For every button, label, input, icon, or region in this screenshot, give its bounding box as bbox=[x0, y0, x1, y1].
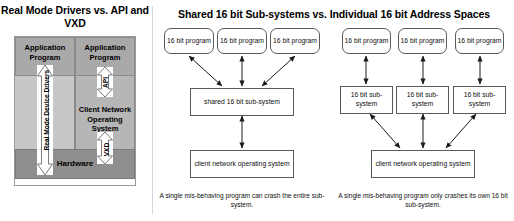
left-panel: Real Mode Drivers vs. API and VXD Client… bbox=[0, 0, 150, 221]
shared-subsystem-diagram: 16 bit program 16 bit program 16 bit pro… bbox=[156, 26, 328, 191]
subsystem-node: 16 bit sub-system bbox=[396, 86, 449, 114]
program-node: 16 bit program bbox=[342, 28, 391, 54]
subsystem-node: 16 bit sub-system bbox=[340, 86, 393, 114]
hardware-band: Hardware bbox=[15, 149, 135, 179]
shared-caption: A single mis-behaving program can crash … bbox=[156, 192, 328, 209]
vxd-label: VXD bbox=[103, 136, 110, 164]
program-node: 16 bit program bbox=[455, 28, 504, 54]
left-panel-title: Real Mode Drivers vs. API and VXD bbox=[0, 4, 150, 30]
individual-caption: A single mis-behaving program only crash… bbox=[334, 192, 512, 209]
program-node: 16 bit program bbox=[398, 28, 447, 54]
real-mode-device-drivers-label: Real Mode Device Drivers bbox=[43, 91, 50, 151]
right-panel-title: Shared 16 bit Sub-systems vs. Individual… bbox=[160, 8, 508, 20]
program-node: 16 bit program bbox=[217, 28, 267, 54]
client-network-os-node: client network operating system bbox=[190, 150, 294, 178]
client-network-os-label: Client Network Operating System bbox=[76, 105, 134, 134]
client-network-os-node: client network operating system bbox=[371, 150, 475, 178]
real-mode-vs-api-diagram: Client Network Operating System Applicat… bbox=[14, 36, 136, 186]
api-arrow: API bbox=[97, 67, 113, 97]
hardware-label: Hardware bbox=[16, 159, 134, 168]
individual-subsystem-diagram: 16 bit program 16 bit program 16 bit pro… bbox=[334, 26, 512, 191]
real-mode-device-drivers-arrow: Real Mode Device Drivers bbox=[37, 65, 53, 175]
panel-divider bbox=[152, 6, 153, 214]
api-label: API bbox=[102, 70, 109, 96]
subsystem-node: 16 bit sub-system bbox=[453, 86, 506, 114]
program-node: 16 bit program bbox=[164, 28, 214, 54]
program-node: 16 bit program bbox=[270, 28, 320, 54]
shared-subsystem-node: shared 16 bit sub-system bbox=[190, 88, 294, 116]
vxd-arrow: VXD bbox=[97, 132, 113, 164]
